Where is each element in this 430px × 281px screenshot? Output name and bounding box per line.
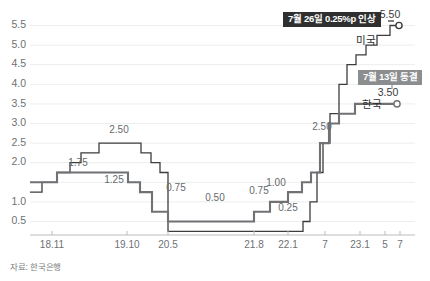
series-name-us: 미국 (356, 34, 376, 46)
x-axis-tick-label: 21.8 (244, 239, 264, 250)
x-axis-tick-label: 22.1 (278, 239, 298, 250)
interest-rate-chart: 5.55.04.54.03.53.02.52.01.00.5 2.501.751… (0, 0, 430, 281)
y-axis-tick-label: 3.0 (11, 116, 26, 128)
y-axis-tick-label: 0.5 (11, 214, 26, 226)
x-axis-tick-labels: 18.1119.1020.521.822.1723.157 (40, 239, 403, 250)
annotation-badge-korea: 7월 13일 동결 (358, 70, 422, 85)
data-point-label: 0.50 (205, 192, 225, 203)
data-point-label: 1.00 (266, 177, 286, 188)
endpoint-marker-us (396, 22, 402, 28)
endpoint-marker-korea (394, 101, 400, 107)
data-point-label: 1.75 (68, 157, 88, 168)
chart-plot-area: 5.55.04.54.03.53.02.52.01.00.5 2.501.751… (0, 0, 430, 281)
endpoint-value-us: 5.50 (380, 8, 401, 20)
data-point-labels: 2.501.751.250.750.500.751.000.252.50 (68, 121, 332, 213)
x-axis-tick-label: 19.10 (114, 239, 139, 250)
x-axis-tick-label: 23.1 (350, 239, 370, 250)
y-axis-tick-label: 4.0 (11, 77, 26, 89)
y-axis-tick-label: 1.0 (11, 195, 26, 207)
y-axis-tick-label: 2.0 (11, 155, 26, 167)
y-axis-tick-label: 2.5 (11, 136, 26, 148)
x-axis-tick-label: 5 (382, 239, 388, 250)
annotation-badge-us: 7월 26일 0.25%p 인상 (283, 12, 381, 27)
x-axis-tick-label: 20.5 (158, 239, 178, 250)
y-axis-tick-label: 5.5 (11, 18, 26, 30)
y-axis-tick-label: 3.5 (11, 97, 26, 109)
x-axis-tick-label: 7 (397, 239, 403, 250)
endpoint-value-korea: 3.50 (378, 86, 399, 98)
y-axis-tick-label: 4.5 (11, 57, 26, 69)
data-point-label: 0.25 (278, 202, 298, 213)
y-axis-tick-labels: 5.55.04.54.03.53.02.52.01.00.5 (11, 18, 26, 226)
y-axis-tick-label: 5.0 (11, 38, 26, 50)
data-point-label: 0.75 (166, 182, 186, 193)
series-endpoint-markers: 5.503.50 (378, 8, 402, 108)
series-name-korea: 한국 (362, 98, 382, 110)
x-axis-tick-label: 7 (322, 239, 328, 250)
data-point-label: 1.25 (104, 174, 124, 185)
data-point-label: 2.50 (109, 124, 129, 135)
source-note: 자료: 한국은행 (10, 260, 61, 272)
x-axis-tick-label: 18.11 (40, 239, 65, 250)
data-point-label: 2.50 (312, 121, 332, 132)
